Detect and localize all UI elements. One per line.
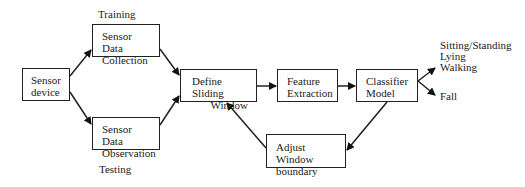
node-text: Classifier — [366, 75, 408, 87]
arrow-classifier-to-adjust — [347, 102, 387, 150]
arrow-classifier-to-fall — [418, 81, 435, 95]
classifier-model-node: Classifier Model — [356, 69, 418, 102]
training-label: Training — [98, 8, 136, 20]
node-text: Model — [366, 87, 408, 99]
arrow-collection-to-window — [160, 49, 179, 75]
arrow-observation-to-window — [160, 96, 179, 125]
sensor-device-node: Sensor device — [22, 68, 70, 101]
node-text: Adjust Window — [276, 141, 336, 165]
node-text: Sensor Data — [102, 123, 150, 147]
node-text: Sensor — [31, 74, 61, 86]
node-text: Observation — [102, 147, 150, 159]
adjust-window-boundary-node: Adjust Window boundary — [266, 134, 346, 168]
testing-label: Testing — [99, 163, 131, 175]
node-text: device — [31, 86, 61, 98]
node-text: Feature — [287, 75, 328, 87]
flow-diagram: Training Testing Sensor device Sensor Da… — [0, 0, 525, 187]
output-text: Walking — [440, 62, 512, 73]
node-text: Extraction — [287, 87, 328, 99]
arrow-device-to-observation — [70, 92, 91, 124]
arrow-classifier-to-activities — [418, 68, 435, 81]
node-text: Collection — [102, 54, 150, 66]
sensor-data-observation-node: Sensor Data Observation — [92, 117, 160, 150]
feature-extraction-node: Feature Extraction — [277, 69, 338, 102]
node-text: boundary — [276, 165, 336, 177]
define-sliding-window-node: Define Sliding Window — [180, 69, 257, 102]
activity-outputs-label: Sitting/Standing Lying Walking — [440, 40, 512, 73]
node-text: Window — [192, 99, 248, 111]
arrow-device-to-collection — [70, 50, 91, 76]
fall-output-label: Fall — [440, 90, 457, 102]
node-text: Define Sliding — [192, 75, 248, 99]
node-text: Sensor Data — [102, 30, 150, 54]
sensor-data-collection-node: Sensor Data Collection — [92, 24, 160, 57]
